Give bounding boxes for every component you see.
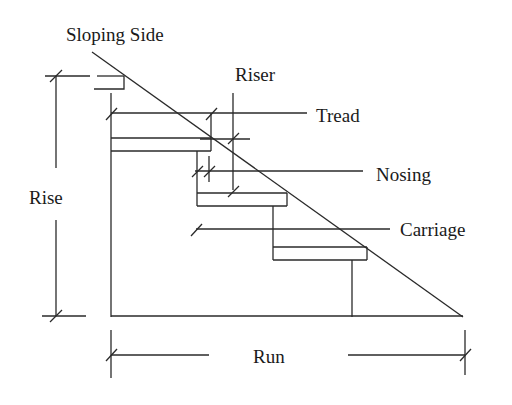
carriage-label: Carriage (400, 220, 465, 239)
carriage-tick (191, 224, 202, 236)
staircase-drawing (0, 0, 512, 405)
top-landing-edge (94, 76, 124, 89)
nosing-label: Nosing (376, 165, 431, 184)
tread-label: Tread (316, 106, 360, 125)
run-label: Run (253, 347, 285, 366)
sloping-side-label: Sloping Side (66, 25, 164, 44)
riser-label: Riser (235, 65, 275, 84)
staircase-diagram: Sloping Side Riser Tread Nosing Carriage… (0, 0, 512, 405)
rise-label: Rise (29, 188, 63, 207)
